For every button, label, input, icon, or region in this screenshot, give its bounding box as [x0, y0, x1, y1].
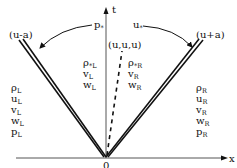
star-right-variables: ρ*R vR wR [128, 57, 142, 90]
right-state-rho: ρR [196, 82, 209, 93]
p-star-arrow [40, 25, 92, 48]
star-left-rho: ρ*L [83, 57, 96, 68]
left-wave-label: (u-a) [9, 30, 33, 40]
right-state-v: vR [196, 104, 209, 115]
star-right-w: wR [128, 79, 142, 90]
origin-label: 0 [103, 161, 109, 168]
u-star-label: u* [133, 20, 143, 33]
star-left-w: wL [83, 79, 96, 90]
t-axis-label: t [112, 5, 116, 15]
x-axis-label: x [229, 154, 235, 164]
left-state-w: wL [11, 115, 24, 126]
right-state-variables: ρR uR vR wR pR [196, 82, 209, 137]
x-axis-arrow-icon [221, 156, 228, 161]
t-axis-arrow-icon [104, 7, 109, 14]
left-state-rho: ρL [11, 82, 24, 93]
right-state-u: uR [196, 93, 209, 104]
left-state-u: uL [11, 93, 24, 104]
right-state-w: wR [196, 115, 209, 126]
right-wave-label: (u+a) [196, 30, 225, 40]
right-wave-line-inner [106, 39, 199, 157]
u-star-arrow [143, 26, 192, 47]
star-left-variables: ρ*L vL wL [83, 57, 96, 90]
right-wave-line-outer [108, 40, 203, 157]
star-right-rho: ρ*R [128, 57, 142, 68]
p-star-label: p* [94, 20, 104, 33]
left-state-variables: ρL uL vL wL pL [11, 82, 24, 137]
contact-wave-label: (u,u,u) [108, 40, 141, 50]
